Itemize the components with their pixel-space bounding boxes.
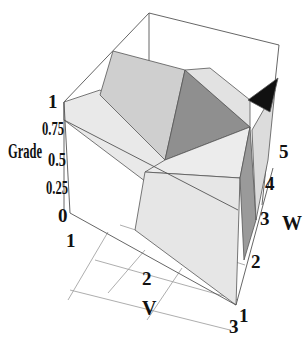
z-tick-0-75: 0.75	[42, 118, 64, 139]
x-tick-2: 2	[142, 268, 152, 289]
z-tick-0-5: 0.5	[48, 149, 66, 170]
z-tick-0-25: 0.25	[46, 177, 68, 198]
z-tick-0: 0	[58, 205, 68, 226]
x-tick-1: 1	[66, 230, 76, 251]
y-tick-1: 1	[239, 305, 249, 326]
y-tick-4: 4	[265, 173, 275, 194]
z-axis-label: Grade	[8, 140, 42, 162]
x-axis-label: V	[142, 297, 157, 319]
surface-plot: 1 0.75 0.5 0.25 0 Grade 1 2 3 V 1 2 3 4 …	[0, 0, 305, 341]
plot-canvas: 1 0.75 0.5 0.25 0 Grade 1 2 3 V 1 2 3 4 …	[0, 0, 305, 341]
y-tick-5: 5	[279, 141, 289, 162]
y-axis-label: W	[282, 212, 302, 234]
y-tick-3: 3	[260, 208, 270, 229]
z-tick-1: 1	[48, 91, 58, 112]
y-tick-2: 2	[251, 251, 261, 272]
x-tick-3: 3	[229, 316, 239, 337]
